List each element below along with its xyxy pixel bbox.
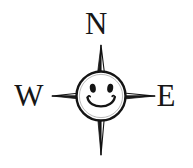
cardinal-label-west: W — [8, 80, 50, 111]
cardinal-label-east: E — [145, 80, 187, 111]
face-outline-circle — [77, 72, 126, 121]
cardinal-label-north: N — [0, 8, 193, 39]
compass-rose-illustration: N W E — [0, 0, 193, 168]
smiley-face — [77, 72, 126, 121]
